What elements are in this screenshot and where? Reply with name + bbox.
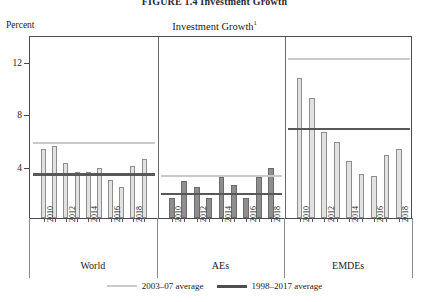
x-axis-tick: [144, 218, 145, 222]
y-axis-tick: [24, 168, 30, 169]
x-axis-tick: [99, 218, 100, 222]
group-label-aes: AEs: [157, 256, 285, 278]
panel-divider: [158, 37, 159, 218]
x-axis-year-label: 2016: [376, 206, 385, 222]
x-axis-tick: [337, 218, 338, 222]
x-axis-year-label: 2012: [68, 206, 77, 222]
x-axis-tick: [300, 218, 301, 222]
x-axis-tick: [312, 218, 313, 222]
y-axis-tick: [24, 115, 30, 116]
x-axis-tick: [349, 218, 350, 222]
x-axis-year-label: 2014: [351, 206, 360, 222]
panel-divider: [285, 37, 286, 218]
x-axis-tick: [66, 218, 67, 222]
x-axis-tick: [374, 218, 375, 222]
group-label-emdes: EMDEs: [284, 256, 412, 278]
x-axis-year-label: 2010: [46, 206, 55, 222]
panel-title: Investment Growth1: [0, 19, 429, 32]
bar: [309, 98, 315, 218]
x-axis-year-label: 2010: [302, 206, 311, 222]
reference-line: [33, 173, 155, 176]
x-axis-tick: [246, 218, 247, 222]
reference-line: [288, 58, 410, 60]
reference-line: [33, 142, 155, 144]
x-axis-tick: [234, 218, 235, 222]
reference-line: [288, 128, 410, 131]
legend-label: 2003–07 average: [142, 281, 204, 291]
x-axis-tick: [172, 218, 173, 222]
y-axis-tick-label: 4: [17, 167, 22, 168]
legend-label: 1998–2017 average: [252, 281, 323, 291]
y-axis-tick: [24, 63, 30, 64]
x-axis-tick: [44, 218, 45, 222]
x-axis-tick: [197, 218, 198, 222]
panel-title-text: Investment Growth: [172, 21, 253, 32]
group-divider: [284, 218, 285, 278]
x-axis-year-label: 2016: [113, 206, 122, 222]
figure-heading: FIGURE 1.4 Investment Growth: [0, 0, 429, 5]
legend-swatch: [217, 285, 247, 288]
legend-swatch: [107, 285, 137, 287]
group-label-band: WorldAEsEMDEs: [29, 256, 412, 278]
legend-item: 1998–2017 average: [217, 281, 323, 291]
investment-growth-figure: FIGURE 1.4 Investment Growth Percent Inv…: [0, 0, 429, 302]
x-axis-tick: [184, 218, 185, 222]
x-axis-tick: [362, 218, 363, 222]
x-axis-year-label: 2018: [273, 206, 282, 222]
x-axis-year-label: 2010: [174, 206, 183, 222]
x-axis-year-label: 2018: [401, 206, 410, 222]
x-axis-tick: [271, 218, 272, 222]
x-axis-tick: [209, 218, 210, 222]
chart-legend: 2003–07 average1998–2017 average: [0, 281, 429, 291]
y-axis-tick-label: 8: [17, 115, 22, 116]
x-axis-tick: [324, 218, 325, 222]
x-axis-year-label: 2016: [249, 206, 258, 222]
x-axis-year-label: 2012: [327, 206, 336, 222]
x-axis-tick: [399, 218, 400, 222]
group-label-world: World: [29, 256, 157, 278]
x-axis-tick: [77, 218, 78, 222]
x-axis-year-label: 2014: [224, 206, 233, 222]
plot-area: 4812: [29, 36, 412, 219]
group-divider: [157, 218, 158, 278]
group-divider: [412, 218, 413, 278]
x-axis-year-label: 2014: [90, 206, 99, 222]
x-axis-tick: [133, 218, 134, 222]
reference-line: [161, 193, 283, 196]
group-divider: [29, 218, 30, 278]
y-axis-tick-label: 12: [13, 63, 23, 64]
x-axis-tick: [259, 218, 260, 222]
reference-line: [161, 175, 283, 177]
x-axis-tick: [386, 218, 387, 222]
x-axis-year-label: 2018: [135, 206, 144, 222]
x-axis-tick: [111, 218, 112, 222]
x-axis-year-label: 2012: [199, 206, 208, 222]
bar: [297, 78, 303, 218]
legend-item: 2003–07 average: [107, 281, 204, 291]
x-axis-tick: [222, 218, 223, 222]
panel-title-footnote-marker: 1: [254, 19, 257, 26]
